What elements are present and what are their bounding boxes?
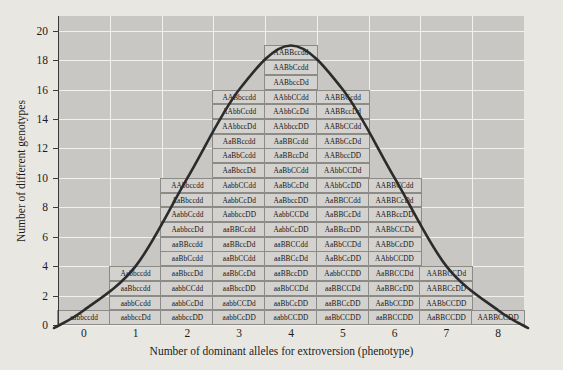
y-axis-tick: [53, 90, 58, 91]
genotype-box: aabbCCdd: [160, 281, 214, 296]
genotype-box: AABbCcDD: [368, 237, 422, 252]
genotype-box: aaBBCcDd: [264, 251, 318, 266]
genotype-box: AABbccDd: [264, 75, 318, 90]
genotype-box: aaBBCcDD: [316, 296, 370, 311]
genotype-box: AAbbccDd: [212, 119, 266, 134]
genotype-box: AABbCCdd: [316, 119, 370, 134]
genotype-box: AABBCcdd: [316, 90, 370, 105]
plot-panel: aabbccddAabbccddaaBbccddaabbCcddaabbccDd…: [58, 16, 524, 325]
genotype-box: aaBBccDd: [212, 237, 266, 252]
genotype-box: AAbbCcDD: [316, 178, 370, 193]
genotype-box: AabbCCDd: [264, 207, 318, 222]
genotype-box: AABbCCDd: [368, 222, 422, 237]
x-axis-tick-label: 3: [219, 327, 259, 339]
genotype-box: aabbCCDd: [212, 296, 266, 311]
genotype-box: AaBbCCdd: [264, 163, 318, 178]
genotype-box: aaBBccDD: [264, 266, 318, 281]
y-axis-tick: [53, 31, 58, 32]
genotype-box: AaBBccDd: [264, 148, 318, 163]
y-axis-tick: [53, 296, 58, 297]
x-axis-tick-label: 0: [64, 327, 104, 339]
genotype-box: AaBbCcdd: [212, 148, 266, 163]
genotype-box: AAbbCcdd: [212, 104, 266, 119]
x-axis-title: Number of dominant alleles for extrovers…: [0, 345, 563, 357]
genotype-box: AABbCCDD: [419, 296, 473, 311]
x-axis-tick-label: 8: [478, 327, 518, 339]
genotype-box: aaBbccdd: [109, 281, 163, 296]
genotype-box: Aabbccdd: [109, 266, 163, 281]
genotype-box: aaBbCcdd: [160, 251, 214, 266]
genotype-box: AABbCcDd: [316, 134, 370, 149]
genotype-box: AABbccDD: [316, 148, 370, 163]
genotype-box: AabbccDd: [160, 222, 214, 237]
genotype-box: AabbCcDd: [212, 193, 266, 208]
y-axis-title-text: Number of different genotypes: [15, 100, 27, 242]
y-axis-tick: [53, 178, 58, 179]
x-axis-tick-label: 1: [116, 327, 156, 339]
genotype-box: aabbCCDD: [264, 310, 318, 325]
genotype-box: aaBBccdd: [160, 237, 214, 252]
y-axis-tick-label: 20: [0, 25, 48, 37]
genotype-box: AabbCcDD: [264, 222, 318, 237]
genotype-box: AaBbccdd: [160, 193, 214, 208]
genotype-box: aaBbCCDd: [264, 281, 318, 296]
y-axis-tick: [53, 148, 58, 149]
genotype-box: aabbCcdd: [109, 296, 163, 311]
y-axis-line: [58, 16, 59, 325]
genotype-box: aaBbCCDD: [316, 310, 370, 325]
genotype-box: AaBBCcDD: [368, 281, 422, 296]
genotype-box: AABBCCDD: [471, 310, 525, 325]
y-axis-ticks: [53, 16, 58, 325]
y-axis-tick: [53, 325, 58, 326]
genotype-box: aaBBCCDd: [316, 281, 370, 296]
genotype-box: AaBbCcDD: [316, 251, 370, 266]
genotype-box: AaBbCCDD: [368, 296, 422, 311]
genotype-box: aaBbCcDD: [264, 296, 318, 311]
genotype-box: aabbCcDD: [212, 310, 266, 325]
genotype-box: AabbCCDD: [316, 266, 370, 281]
genotype-box: aabbCcDd: [160, 296, 214, 311]
y-axis-tick-label: 0: [0, 319, 48, 331]
genotype-box: AABBCcDd: [368, 193, 422, 208]
genotype-box: AaBbCCDd: [316, 237, 370, 252]
genotype-box: AaBbCcDd: [264, 178, 318, 193]
genotype-box: AAbbCcDd: [264, 104, 318, 119]
genotype-box: aaBbCCdd: [212, 251, 266, 266]
genotype-box: AabbCcdd: [160, 207, 214, 222]
genotype-box: AaBbccDD: [264, 193, 318, 208]
x-axis-tick-label: 4: [271, 327, 311, 339]
genotype-box: AAbbccdd: [160, 178, 214, 193]
y-axis-tick: [53, 237, 58, 238]
genotype-box: AABBccDd: [316, 104, 370, 119]
genotype-box: AaBBCCDD: [419, 310, 473, 325]
genotype-box: AaBBCcDd: [316, 207, 370, 222]
genotype-box: AAbbCCDD: [368, 251, 422, 266]
genotype-box: AABBCCdd: [368, 178, 422, 193]
genotype-box: AaBBCCDd: [368, 266, 422, 281]
genotype-box: aaBBCcdd: [212, 222, 266, 237]
x-axis-tick-label: 6: [375, 327, 415, 339]
genotype-box: aabbccdd: [57, 310, 111, 325]
genotype-box: AAbbccDD: [264, 119, 318, 134]
genotype-box: AAbbCCdd: [264, 90, 318, 105]
genotype-box: AABbCcdd: [264, 60, 318, 75]
y-axis-tick: [53, 207, 58, 208]
genotype-box: aaBbccDD: [212, 281, 266, 296]
x-axis-tick-label: 5: [323, 327, 363, 339]
genotype-box: AABBccDD: [368, 207, 422, 222]
genotype-box: aaBbCcDd: [212, 266, 266, 281]
gridline-horizontal: [58, 31, 524, 32]
genotype-box: AaBBCCdd: [316, 193, 370, 208]
genotype-box: AabbCCdd: [212, 178, 266, 193]
y-axis-tick: [53, 119, 58, 120]
genotype-box: AABBCCDd: [419, 266, 473, 281]
genotype-box: AABbccdd: [212, 90, 266, 105]
x-axis-tick-label: 7: [426, 327, 466, 339]
genotype-box: AaBbccDd: [212, 163, 266, 178]
genotype-box: AaBBccdd: [212, 134, 266, 149]
genotype-box: AABBCcDD: [419, 281, 473, 296]
genotype-box: AaBBccDD: [316, 222, 370, 237]
genotype-box: aaBBCCdd: [264, 237, 318, 252]
y-axis-tick: [53, 266, 58, 267]
genotype-box: aaBbccDd: [160, 266, 214, 281]
